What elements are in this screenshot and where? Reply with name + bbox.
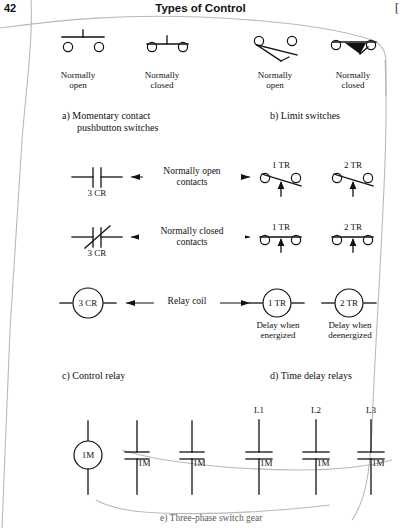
phase-l3-contact-label: 1M (372, 458, 398, 468)
caption-e: e) Three-phase switch gear (160, 512, 262, 524)
phase-l3-contact-symbol (0, 0, 401, 528)
scanned-page: 42 Types of Control [ Normally open Norm… (0, 0, 401, 528)
